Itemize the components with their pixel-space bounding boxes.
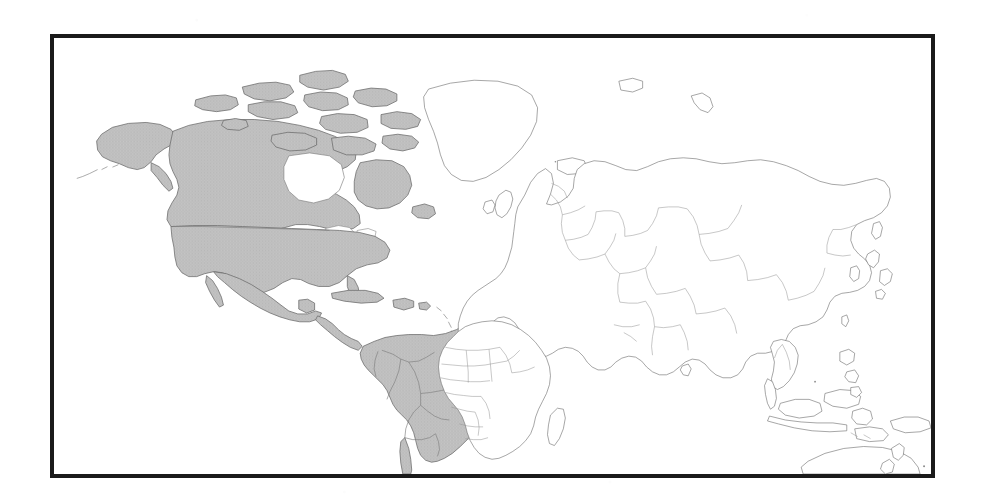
world-map-svg: .hl { fill:url(#ditherGrey); stroke:#6e6… [54, 38, 931, 474]
map-frame: .hl { fill:url(#ditherGrey); stroke:#6e6… [50, 34, 935, 478]
world-map-figure: .hl { fill:url(#ditherGrey); stroke:#6e6… [0, 0, 984, 502]
